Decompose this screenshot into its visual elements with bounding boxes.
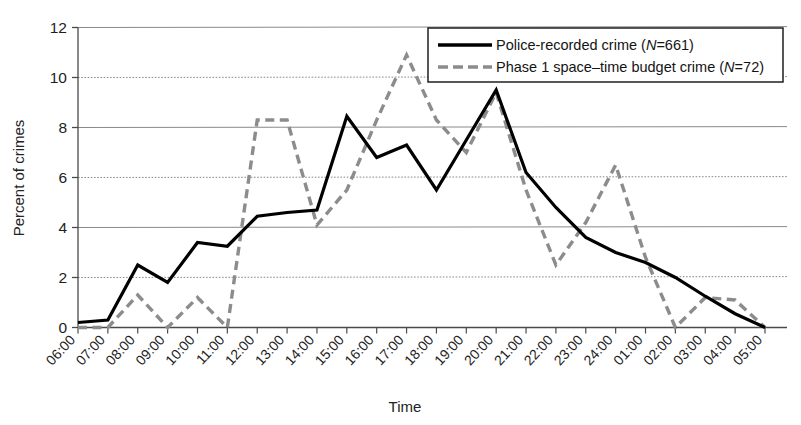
y-tick-label: 10 (50, 69, 68, 86)
y-tick-label: 6 (58, 169, 67, 186)
chart-legend: Police-recorded crime (N=661) Phase 1 sp… (428, 28, 783, 82)
y-axis-title: Percent of crimes (10, 120, 27, 237)
y-tick-label: 8 (58, 119, 67, 136)
y-tick-label: 4 (58, 219, 67, 236)
crime-time-line-chart: 024681012 06:0007:0008:0009:0010:0011:00… (0, 0, 801, 425)
legend-label-police-recorded-crime: Police-recorded crime (N=661) (496, 37, 694, 53)
chart-plot-area: 024681012 06:0007:0008:0009:0010:0011:00… (0, 0, 801, 425)
x-axis-title: Time (389, 398, 422, 415)
legend-label-phase1-space-time-budget-crime: Phase 1 space–time budget crime (N=72) (496, 59, 764, 75)
y-tick-label: 2 (58, 269, 67, 286)
y-tick-label: 12 (50, 19, 67, 36)
